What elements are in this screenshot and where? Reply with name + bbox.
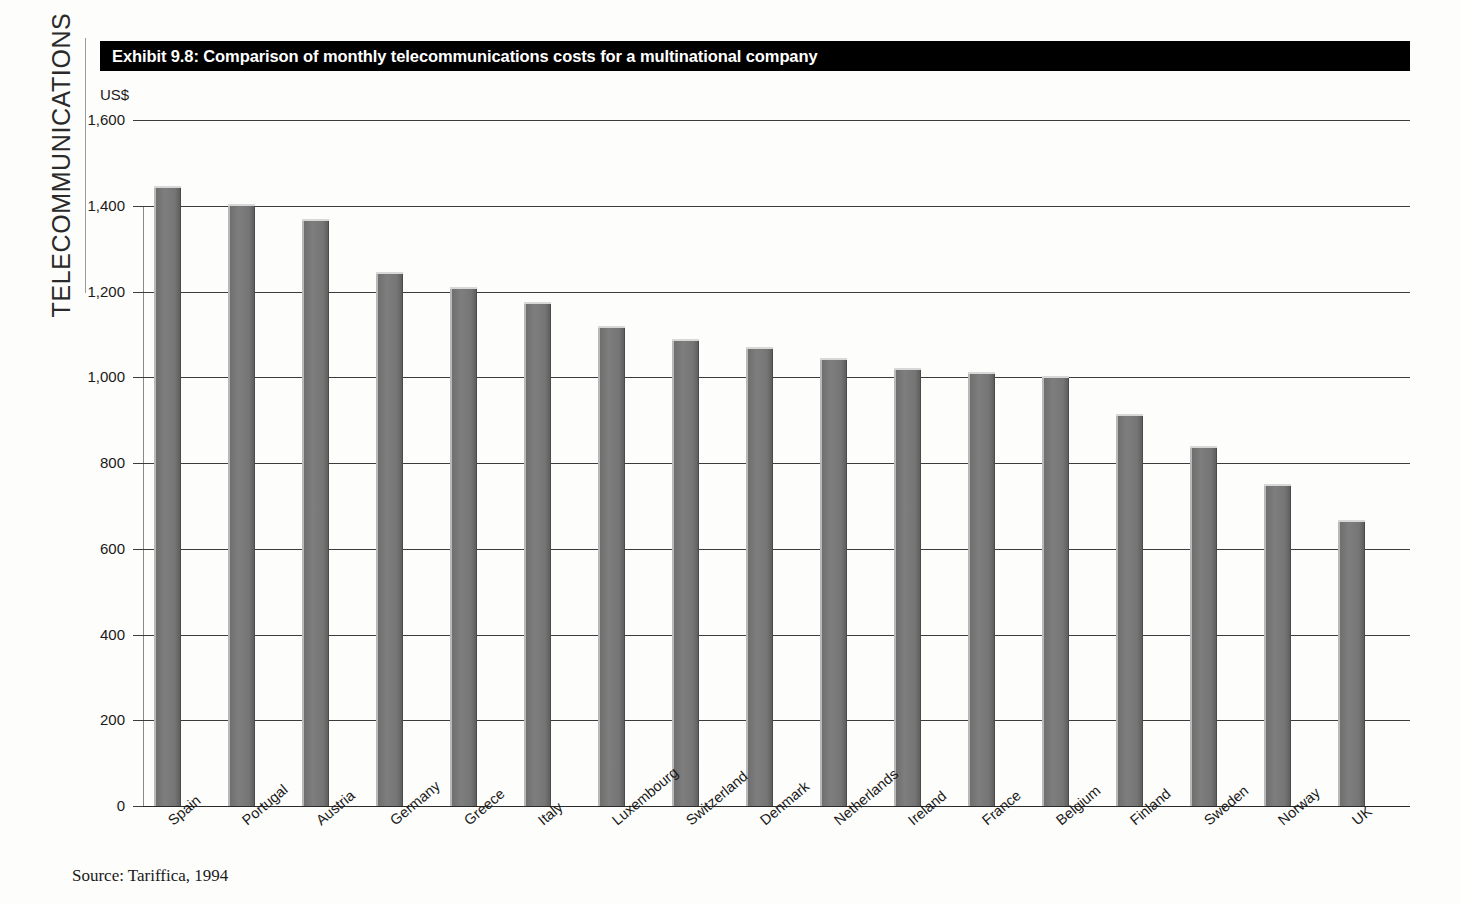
x-axis-label-slot: France: [957, 812, 1031, 890]
y-axis-tick-label: 1,400: [0, 197, 125, 214]
x-axis-label-slot: Italy: [513, 812, 587, 890]
bar-uk: [1338, 520, 1365, 806]
bar-ireland: [894, 368, 921, 806]
exhibit-page: TELECOMMUNICATIONS Exhibit 9.8: Comparis…: [0, 0, 1461, 904]
y-axis-tick-label: 1,200: [0, 283, 125, 300]
y-axis-tick-label: 400: [0, 626, 125, 643]
x-axis-label-slot: Luxembourg: [587, 812, 661, 890]
source-note: Source: Tariffica, 1994: [72, 866, 228, 886]
bar-portugal: [228, 204, 255, 806]
bar-switzerland: [672, 339, 699, 806]
x-axis-label-slot: Netherlands: [809, 812, 883, 890]
chart-plot-area: 02004006008001,0001,2001,4001,600: [100, 112, 1410, 812]
bar-finland: [1116, 414, 1143, 806]
bar-denmark: [746, 347, 773, 806]
x-axis-label-slot: UK: [1327, 812, 1401, 890]
exhibit-title-text: Exhibit 9.8: Comparison of monthly telec…: [100, 47, 818, 66]
y-axis-tick-label: 0: [0, 797, 125, 814]
x-axis-label-slot: Austria: [291, 812, 365, 890]
bar-luxembourg: [598, 326, 625, 806]
bar-netherlands: [820, 358, 847, 806]
bar-norway: [1264, 484, 1291, 806]
x-axis-label-slot: Greece: [439, 812, 513, 890]
y-axis-tick: [133, 120, 143, 121]
bar-france: [968, 372, 995, 806]
x-axis-label-slot: Ireland: [883, 812, 957, 890]
y-axis-tick-label: 800: [0, 454, 125, 471]
bar-spain: [154, 186, 181, 806]
x-axis-label-slot: Germany: [365, 812, 439, 890]
bar-sweden: [1190, 446, 1217, 806]
y-axis-tick: [133, 549, 143, 550]
bars-layer: [143, 112, 1410, 806]
x-axis-label-slot: Switzerland: [661, 812, 735, 890]
y-axis-tick: [133, 635, 143, 636]
bar-italy: [524, 302, 551, 806]
bar-austria: [302, 219, 329, 806]
x-axis-label-slot: Norway: [1253, 812, 1327, 890]
running-head: TELECOMMUNICATIONS: [38, 20, 84, 310]
bar-germany: [376, 272, 403, 806]
y-axis-tick-label: 200: [0, 711, 125, 728]
y-axis-tick: [133, 463, 143, 464]
y-axis-tick: [133, 806, 143, 807]
x-axis-label-slot: Belgium: [1031, 812, 1105, 890]
bar-belgium: [1042, 376, 1069, 806]
y-axis-unit-label: US$: [100, 86, 129, 103]
x-axis-label-slot: Sweden: [1179, 812, 1253, 890]
y-axis-tick-label: 600: [0, 540, 125, 557]
y-axis-tick: [133, 377, 143, 378]
x-axis-labels: SpainPortugalAustriaGermanyGreeceItalyLu…: [143, 812, 1410, 892]
y-axis-tick: [133, 292, 143, 293]
x-axis-label-slot: Denmark: [735, 812, 809, 890]
bar-greece: [450, 287, 477, 806]
y-axis-tick: [133, 206, 143, 207]
x-axis-label-slot: Finland: [1105, 812, 1179, 890]
running-head-label: TELECOMMUNICATIONS: [47, 13, 76, 318]
exhibit-title-banner: Exhibit 9.8: Comparison of monthly telec…: [100, 41, 1410, 71]
y-axis-tick: [133, 720, 143, 721]
y-axis-tick-label: 1,000: [0, 368, 125, 385]
y-axis-tick-label: 1,600: [0, 111, 125, 128]
running-head-rule: [85, 38, 86, 293]
